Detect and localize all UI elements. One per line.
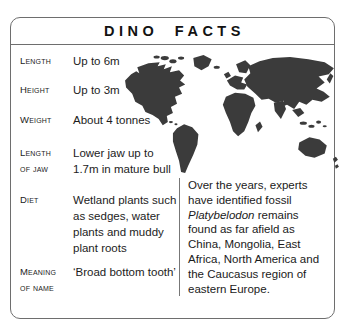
facts-list: Length Up to 6m Height Up to 3m Weight A… <box>11 45 179 296</box>
fact-row-jaw-length: Length of jaw Lower jaw up to 1.7m in ma… <box>20 145 179 177</box>
card-body: Length Up to 6m Height Up to 3m Weight A… <box>11 45 334 317</box>
fact-value: Up to 3m <box>73 82 120 98</box>
fact-row-length: Length Up to 6m <box>20 53 179 69</box>
page-title: DINO FACTS <box>100 23 245 39</box>
fact-label: Height <box>20 82 73 98</box>
fact-value: Up to 6m <box>73 53 120 69</box>
paragraph-line: found as far afield as <box>188 222 340 237</box>
fact-value: About 4 tonnes <box>73 112 150 128</box>
paragraph-line: eastern Europe. <box>188 282 340 297</box>
fact-label: Weight <box>20 112 73 128</box>
fact-row-name-meaning: Meaning of name ‘Broad bottom tooth’ <box>20 264 179 296</box>
fact-row-height: Height Up to 3m <box>20 82 179 98</box>
fact-value: ‘Broad bottom tooth’ <box>73 264 176 280</box>
paragraph-line: Africa, North America and <box>188 252 340 267</box>
fact-label: Length of jaw <box>20 145 73 177</box>
distribution-paragraph: Over the years, expertshave identified f… <box>179 178 340 296</box>
fact-row-diet: Diet Wetland plants such as sedges, wate… <box>20 192 179 256</box>
fact-value: Lower jaw up to 1.7m in mature bull <box>73 145 171 177</box>
fact-label: Length <box>20 53 73 69</box>
paragraph-line: have identified fossil <box>188 193 340 208</box>
paragraph-line: the Caucasus region of <box>188 267 340 282</box>
paragraph-line: Platybelodon remains <box>188 208 340 223</box>
paragraph-line: Over the years, experts <box>188 178 340 193</box>
paragraph-line: China, Mongolia, East <box>188 237 340 252</box>
fact-label: Meaning of name <box>20 264 73 296</box>
dino-facts-card: DINO FACTS Length Up to 6m Height Up to … <box>10 17 335 319</box>
fact-value: Wetland plants such as sedges, water pla… <box>73 192 176 256</box>
species-name-italic: Platybelodon <box>188 209 255 221</box>
fact-label: Diet <box>20 192 73 208</box>
fact-row-weight: Weight About 4 tonnes <box>20 112 179 128</box>
card-header: DINO FACTS <box>11 18 334 45</box>
